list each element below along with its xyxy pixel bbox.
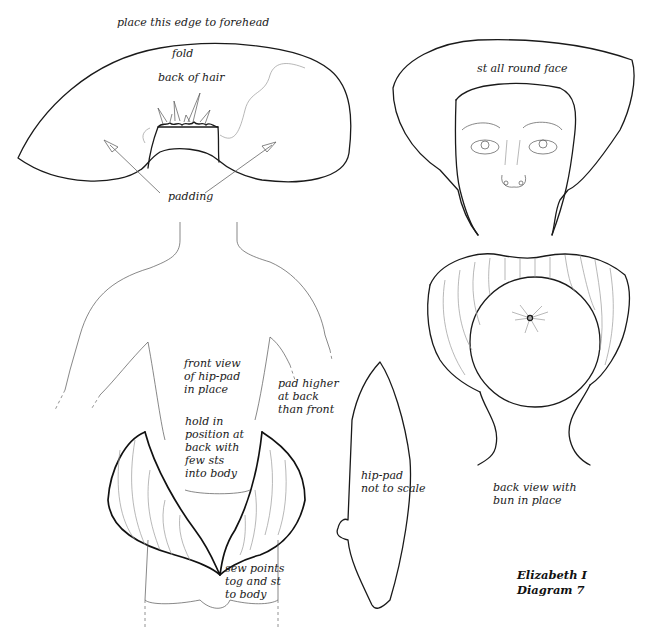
- label-place-edge-forehead: place this edge to forehead: [117, 16, 269, 29]
- label-padding: padding: [168, 190, 213, 203]
- label-st-all-round-face: st all round face: [477, 62, 568, 75]
- label-pad-higher-at-back: pad higher at back than front: [278, 377, 339, 416]
- diagram-canvas: place this edge to forehead fold back of…: [0, 0, 650, 637]
- hair-piece-shape: [18, 44, 351, 193]
- label-back-of-hair: back of hair: [158, 71, 225, 84]
- diagram-artwork: [0, 0, 650, 637]
- label-hip-pad-not-to-scale: hip-pad not to scale: [361, 469, 426, 495]
- label-fold: fold: [172, 47, 193, 60]
- label-front-view-hip-pad: front view of hip-pad in place: [184, 357, 241, 396]
- label-sew-points: sew points tog and st to body: [225, 562, 284, 601]
- label-hold-in-position: hold in position at back with few sts in…: [185, 415, 244, 480]
- diagram-title: Elizabeth I Diagram 7: [517, 568, 587, 598]
- label-back-view-bun: back view with bun in place: [493, 481, 577, 507]
- back-view-shape: [428, 254, 630, 465]
